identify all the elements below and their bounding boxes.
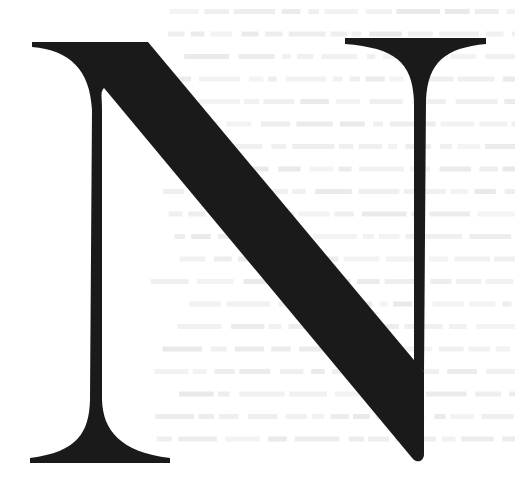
diagonal-stroke bbox=[104, 42, 424, 461]
image-canvas bbox=[0, 0, 521, 487]
serif-letter-n-glyph bbox=[0, 0, 521, 487]
